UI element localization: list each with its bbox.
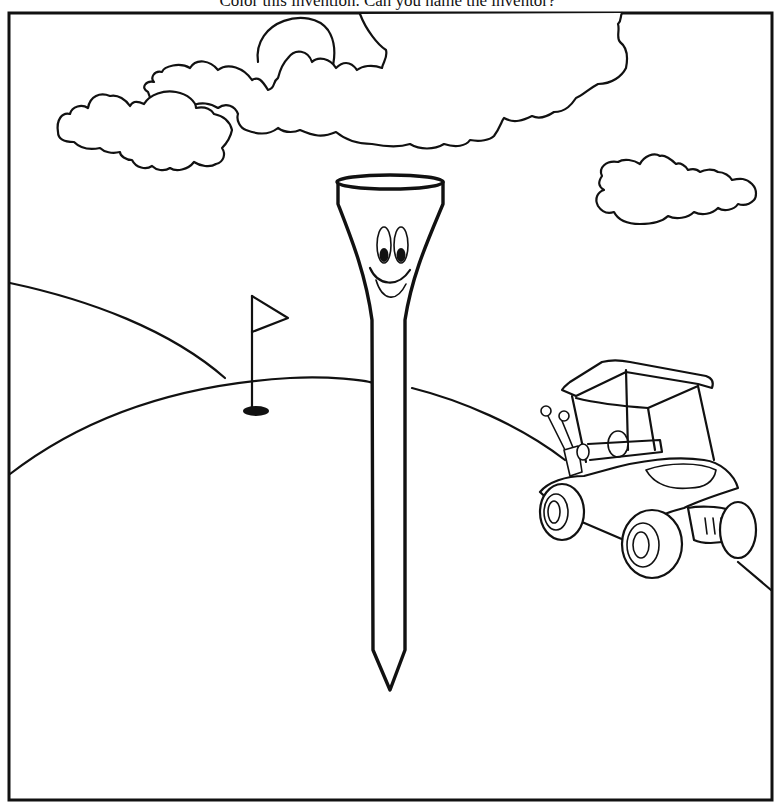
golf-cart	[540, 361, 756, 579]
front-wheel	[622, 510, 682, 578]
right-pupil	[397, 248, 406, 262]
back-hill	[10, 283, 225, 378]
rear-wheel	[540, 484, 584, 540]
flag-pin	[252, 296, 288, 408]
right-hill-edge	[738, 562, 771, 590]
coloring-illustration	[0, 0, 775, 803]
right-hill-slope	[412, 388, 565, 460]
front-hill	[10, 377, 373, 474]
left-pupil	[380, 248, 389, 262]
hole	[243, 406, 269, 416]
golf-tee-character	[337, 175, 443, 690]
small-cloud-right	[596, 154, 756, 224]
right-front-wheel	[720, 502, 756, 558]
